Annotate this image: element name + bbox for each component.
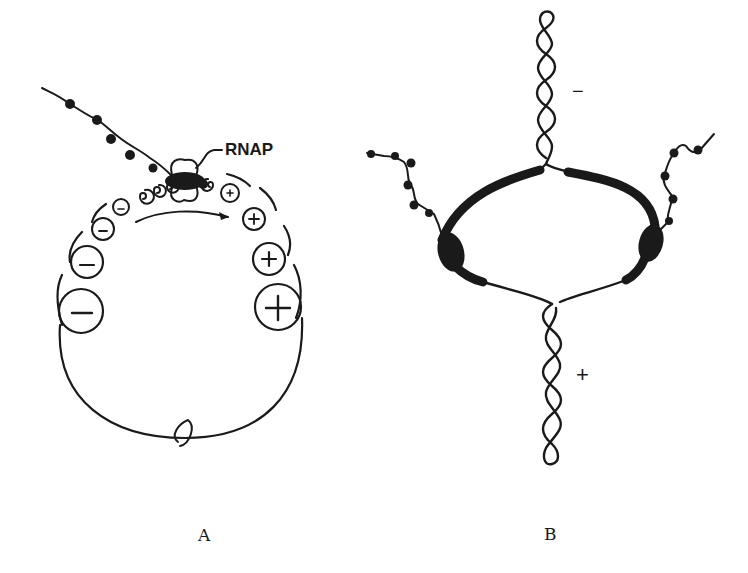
diagram-canvas	[0, 0, 748, 573]
negative-supercoil-sign: −	[572, 80, 584, 103]
positive-supercoil-domains	[201, 179, 301, 330]
lower-left-strand	[483, 282, 552, 304]
ribosomes-right	[661, 146, 703, 226]
nascent-rna-strand	[42, 88, 172, 176]
nascent-rna-right	[660, 134, 714, 230]
panel-label-b: B	[544, 524, 557, 544]
swivel-loop	[175, 420, 192, 446]
dna-arc-right-2	[284, 226, 290, 255]
negative-plectoneme	[537, 11, 555, 164]
transcription-direction-arrow	[136, 211, 228, 222]
dna-arc-right-3	[260, 188, 276, 210]
positive-supercoil-sign: +	[576, 362, 589, 388]
duplex-upper-left	[442, 170, 540, 240]
negative-supercoil-domains	[59, 181, 179, 333]
lower-right-strand	[560, 280, 626, 302]
nascent-rna-left	[367, 153, 442, 236]
panel-label-a: A	[198, 525, 210, 545]
positive-plectoneme	[543, 304, 561, 464]
rnap-subunit	[198, 179, 208, 189]
dna-circle-bottom	[60, 318, 302, 438]
supercoiling-figure: RNAP − + A B	[0, 0, 748, 573]
panel-b-diagram	[367, 11, 714, 464]
rnap-label: RNAP	[225, 140, 273, 160]
rnap-leader-line	[196, 150, 222, 168]
